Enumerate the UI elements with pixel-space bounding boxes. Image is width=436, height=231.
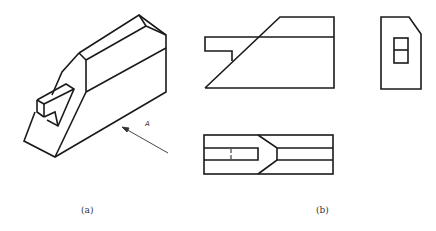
view-label-a: A — [145, 120, 150, 128]
top-view — [204, 135, 333, 174]
view-direction-arrow — [122, 127, 168, 153]
side-view — [381, 17, 421, 89]
caption-b: (b) — [316, 205, 329, 215]
isometric-view-a — [24, 15, 166, 157]
caption-a: (a) — [81, 205, 93, 215]
technical-drawing — [0, 0, 436, 231]
front-view — [205, 17, 334, 88]
